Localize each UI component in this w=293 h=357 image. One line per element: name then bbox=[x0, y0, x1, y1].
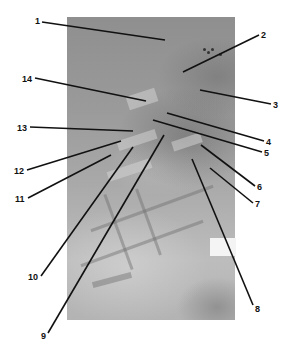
callout-label-13: 13 bbox=[17, 124, 27, 133]
leader-line-11 bbox=[28, 155, 111, 198]
callout-label-5: 5 bbox=[264, 149, 269, 158]
callout-label-4: 4 bbox=[266, 138, 271, 147]
leader-line-9 bbox=[48, 135, 164, 333]
leader-line-8 bbox=[192, 159, 253, 305]
leader-line-3 bbox=[200, 90, 271, 104]
callout-label-12: 12 bbox=[14, 167, 24, 176]
specimen-figure: 1234567891011121314 bbox=[0, 0, 293, 357]
callout-label-2: 2 bbox=[261, 31, 266, 40]
callout-label-7: 7 bbox=[255, 200, 260, 209]
callout-label-11: 11 bbox=[15, 195, 25, 204]
callout-label-1: 1 bbox=[35, 17, 40, 26]
leader-line-12 bbox=[27, 141, 121, 170]
leader-line-4 bbox=[167, 113, 264, 141]
callout-label-14: 14 bbox=[22, 75, 32, 84]
leader-line-14 bbox=[35, 78, 146, 101]
callout-label-10: 10 bbox=[28, 273, 38, 282]
leader-line-6 bbox=[201, 145, 255, 186]
callout-label-9: 9 bbox=[41, 332, 46, 341]
callout-label-8: 8 bbox=[255, 305, 260, 314]
callout-label-6: 6 bbox=[257, 183, 262, 192]
leader-line-1 bbox=[42, 22, 165, 40]
leader-line-2 bbox=[183, 35, 259, 72]
callout-label-3: 3 bbox=[273, 101, 278, 110]
leader-line-13 bbox=[30, 127, 133, 131]
leader-line-7 bbox=[210, 168, 253, 203]
leader-lines bbox=[0, 0, 293, 357]
